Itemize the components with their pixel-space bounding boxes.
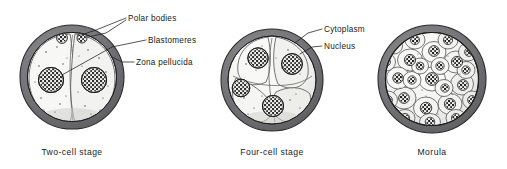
label-zona-pellucida: Zona pellucida [136, 58, 193, 67]
stage-morula: ANVL [377, 25, 487, 133]
stage-four-cell [221, 29, 323, 131]
nucleus-lower-left-four [232, 79, 250, 97]
embryo-cleavage-figure: ANVL Polar bodies Blastomeres Zona pellu… [0, 0, 507, 169]
label-nucleus: Nucleus [324, 42, 355, 51]
nucleus-upper-right-four [282, 54, 303, 75]
label-cytoplasm: Cytoplasm [324, 25, 365, 34]
nucleus-right-two-cell [81, 67, 106, 92]
nucleus-left-two-cell [38, 67, 63, 92]
stage-two-cell [20, 25, 124, 129]
nucleus-lower-right-four [262, 95, 283, 116]
caption-morula: Morula [418, 147, 447, 157]
caption-four-cell-stage: Four-cell stage [240, 147, 304, 157]
label-blastomeres: Blastomeres [148, 36, 196, 45]
nucleus-upper-left-four [248, 48, 268, 68]
label-polar-bodies: Polar bodies [128, 14, 177, 23]
figure-canvas: ANVL Polar bodies Blastomeres Zona pellu… [0, 0, 507, 169]
caption-two-cell-stage: Two-cell stage [41, 147, 102, 157]
